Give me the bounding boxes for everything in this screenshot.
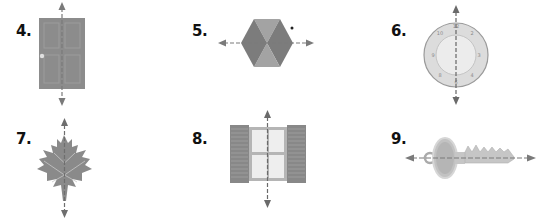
item-label-4: 4. — [16, 22, 31, 40]
clock-icon: 12 2 3 4 6 8 9 10 — [420, 0, 510, 110]
figure-key — [400, 130, 543, 180]
svg-text:8: 8 — [438, 72, 441, 78]
figure-clock: 12 2 3 4 6 8 9 10 — [420, 0, 510, 110]
figure-maple-leaf — [30, 115, 105, 221]
key-icon — [400, 130, 543, 180]
item-label-8: 8. — [192, 130, 207, 148]
svg-text:9: 9 — [431, 52, 434, 58]
figure-hexagon — [210, 10, 330, 75]
svg-text:2: 2 — [470, 30, 473, 36]
maple-leaf-icon — [30, 115, 105, 221]
item-label-5: 5. — [192, 22, 207, 40]
window-icon — [225, 110, 310, 221]
figure-door — [30, 0, 100, 110]
svg-text:10: 10 — [437, 30, 443, 36]
svg-text:4: 4 — [470, 72, 473, 78]
door-icon — [30, 0, 100, 110]
item-label-6: 6. — [391, 22, 406, 40]
hexagon-icon — [210, 10, 330, 75]
figure-window — [225, 110, 310, 221]
svg-text:3: 3 — [477, 52, 480, 58]
item-label-7: 7. — [16, 130, 31, 148]
